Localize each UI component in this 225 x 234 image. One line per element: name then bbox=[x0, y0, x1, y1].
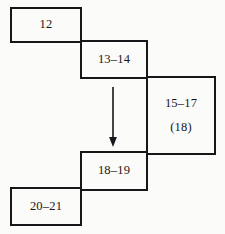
node-sublabel: (18) bbox=[170, 121, 192, 134]
node-label: 15–17 bbox=[165, 97, 197, 110]
node-label: 13–14 bbox=[98, 53, 130, 66]
node-box-13-14: 13–14 bbox=[80, 40, 148, 79]
node-box-20-21: 20–21 bbox=[10, 187, 82, 226]
down-arrow-icon bbox=[104, 86, 122, 148]
node-box-12: 12 bbox=[10, 7, 82, 43]
node-label: 18–19 bbox=[98, 164, 130, 177]
node-box-15-17: 15–17 (18) bbox=[146, 76, 216, 155]
node-label: 12 bbox=[40, 18, 53, 31]
node-label: 20–21 bbox=[30, 200, 62, 213]
node-box-18-19: 18–19 bbox=[80, 151, 148, 191]
diagram-canvas: 12 13–14 15–17 (18) 18–19 20–21 bbox=[0, 0, 225, 234]
